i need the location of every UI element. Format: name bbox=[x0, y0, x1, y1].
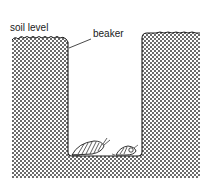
beaker-label: beaker bbox=[93, 29, 124, 39]
soil-level-label: soil level bbox=[10, 23, 48, 33]
beaker bbox=[68, 38, 142, 156]
